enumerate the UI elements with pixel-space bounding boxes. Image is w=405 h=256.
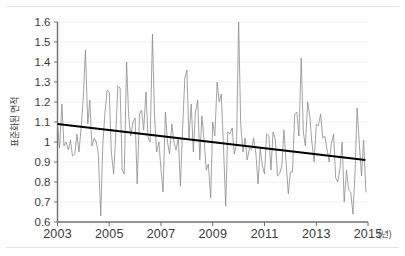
data-series-line [58, 22, 366, 216]
y-tick-label: 0.8 [35, 176, 51, 188]
y-axis-label: 표준화된 면적 [9, 97, 20, 148]
gridlines [58, 22, 369, 202]
y-tick-label: 1 [44, 136, 50, 148]
y-tick-label: 1.1 [35, 116, 51, 128]
line-chart: 0.60.70.80.911.11.21.31.41.51.6 20032005… [0, 0, 405, 256]
x-tick-label: 2007 [147, 227, 176, 241]
x-tick-labels: 2003200520072009201120132015 [43, 227, 382, 241]
y-tick-label: 1.2 [35, 96, 51, 108]
chart-figure: 0.60.70.80.911.11.21.31.41.51.6 20032005… [0, 0, 405, 256]
y-tick-labels: 0.60.70.80.911.11.21.31.41.51.6 [35, 16, 52, 228]
y-tick-label: 1.3 [35, 76, 51, 88]
x-tick-label: 2009 [198, 227, 227, 241]
x-tick-label: 2011 [251, 227, 279, 241]
y-tick-label: 0.9 [35, 156, 51, 168]
y-tick-label: 1.6 [35, 16, 51, 28]
x-tick-label: 2003 [43, 227, 72, 241]
y-tick-label: 1.5 [35, 36, 51, 48]
y-tick-label: 0.7 [35, 196, 51, 208]
x-axis-unit-label: (년) [378, 229, 392, 239]
x-tick-label: 2005 [95, 227, 124, 241]
y-tick-label: 1.4 [35, 56, 52, 68]
x-tick-label: 2013 [302, 227, 331, 241]
